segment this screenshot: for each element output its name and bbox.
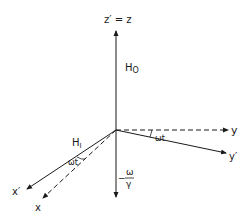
y-prime-axis-label: y′ <box>229 151 238 162</box>
angle-label-y: ωt <box>155 134 165 143</box>
h1-label: HI <box>72 137 82 150</box>
effective-field-numerator: ω <box>126 167 134 177</box>
rotating-frame-diagram: z′ = z HO HI ωt ωt y y′ x′ x − ω γ <box>0 0 252 224</box>
effective-field-denominator: γ <box>126 179 132 189</box>
y-axis-label: y <box>231 124 238 137</box>
angle-arc-y <box>150 130 152 137</box>
angle-label-x: ωt <box>68 158 78 167</box>
angle-arc-x <box>77 157 85 159</box>
effective-field-sign: − <box>118 173 126 183</box>
y-prime-axis <box>116 130 226 153</box>
x-axis-label: x <box>35 202 41 213</box>
x-prime-axis-label: x′ <box>12 186 21 197</box>
h0-label: HO <box>125 62 139 75</box>
z-axis-label: z′ = z <box>104 14 132 25</box>
